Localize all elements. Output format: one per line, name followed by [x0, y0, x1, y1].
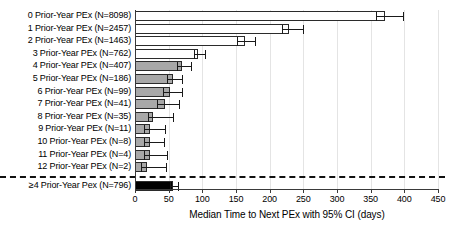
error-bar-line-8 [148, 117, 172, 118]
error-bar-cap-11-low [144, 151, 145, 160]
bar-1 [135, 24, 289, 34]
error-bar-line-10 [144, 142, 164, 143]
x-tick-label-350: 350 [356, 194, 386, 205]
error-bar-cap-7-high [179, 100, 180, 109]
group-separator-dashed-line [0, 176, 445, 178]
bar-row-12 [0, 161, 453, 174]
error-bar-cap-6-high [182, 88, 183, 97]
bar-row-9 [0, 123, 453, 136]
x-tick-label-400: 400 [389, 194, 419, 205]
bar-row-7 [0, 98, 453, 111]
x-tick-50 [169, 189, 170, 193]
bar-row-2 [0, 35, 453, 48]
x-tick-250 [303, 189, 304, 193]
error-bar-cap-6-low [163, 88, 164, 97]
bar-row-10 [0, 136, 453, 149]
x-tick-400 [404, 189, 405, 193]
y-axis-line [135, 10, 136, 190]
x-tick-0 [135, 189, 136, 193]
error-bar-cap-8-high [173, 113, 174, 122]
x-tick-150 [236, 189, 237, 193]
error-bar-line-7 [157, 104, 180, 105]
x-tick-350 [371, 189, 372, 193]
bar-row-3 [0, 48, 453, 61]
error-bar-cap-0-high [403, 12, 404, 21]
x-tick-label-100: 100 [187, 194, 217, 205]
error-bar-cap-9-high [165, 125, 166, 134]
x-tick-200 [270, 189, 271, 193]
x-tick-label-50: 50 [154, 194, 184, 205]
error-bar-cap-7-low [157, 100, 158, 109]
error-bar-line-4 [177, 66, 191, 67]
error-bar-cap-4-low [177, 62, 178, 71]
error-bar-cap-3-low [194, 50, 195, 59]
bar-row-1 [0, 23, 453, 36]
error-bar-cap-1-high [303, 25, 304, 34]
error-bar-cap-1-low [282, 25, 283, 34]
x-tick-label-200: 200 [255, 194, 285, 205]
chart-container: 0 Prior-Year PEx (N=8098)1 Prior-Year PE… [0, 0, 453, 237]
x-tick-label-150: 150 [221, 194, 251, 205]
error-bar-cap-10-low [144, 138, 145, 147]
error-bar-cap-11-high [167, 151, 168, 160]
error-bar-cap-3-high [205, 50, 206, 59]
bar-3 [135, 49, 198, 59]
error-bar-cap-4-high [191, 62, 192, 71]
bar-4 [135, 61, 182, 71]
error-bar-cap-8-low [148, 113, 149, 122]
error-bar-cap-12-high [166, 163, 167, 172]
error-bar-cap-9-low [144, 125, 145, 134]
error-bar-line-11 [144, 155, 167, 156]
error-bar-line-9 [144, 129, 164, 130]
x-tick-300 [337, 189, 338, 193]
bar-row-11 [0, 149, 453, 162]
bar-row-13 [0, 180, 453, 193]
error-bar-line-12 [141, 167, 166, 168]
error-bar-cap-2-low [237, 37, 238, 46]
error-bar-cap-5-high [182, 75, 183, 84]
x-tick-label-450: 450 [423, 194, 453, 205]
bar-row-6 [0, 86, 453, 99]
error-bar-cap-0-low [376, 12, 377, 21]
x-axis-title: Median Time to Next PEx with 95% CI (day… [135, 209, 439, 220]
error-bar-cap-2-high [255, 37, 256, 46]
x-tick-label-0: 0 [120, 194, 150, 205]
error-bar-line-6 [163, 92, 182, 93]
bar-0 [135, 11, 385, 21]
x-axis-line [135, 189, 439, 190]
bar-row-8 [0, 111, 453, 124]
error-bar-cap-10-high [164, 138, 165, 147]
bar-2 [135, 36, 245, 46]
error-bar-line-0 [376, 16, 403, 17]
error-bar-line-2 [237, 41, 255, 42]
error-bar-line-5 [167, 79, 182, 80]
bar-row-4 [0, 60, 453, 73]
x-tick-label-300: 300 [322, 194, 352, 205]
x-tick-label-250: 250 [288, 194, 318, 205]
error-bar-line-3 [194, 54, 205, 55]
bar-row-5 [0, 73, 453, 86]
x-tick-100 [202, 189, 203, 193]
error-bar-line-13 [170, 186, 178, 187]
error-bar-cap-5-low [167, 75, 168, 84]
error-bar-line-1 [282, 29, 303, 30]
error-bar-cap-12-low [141, 163, 142, 172]
bar-row-0 [0, 10, 453, 23]
x-tick-450 [438, 189, 439, 193]
